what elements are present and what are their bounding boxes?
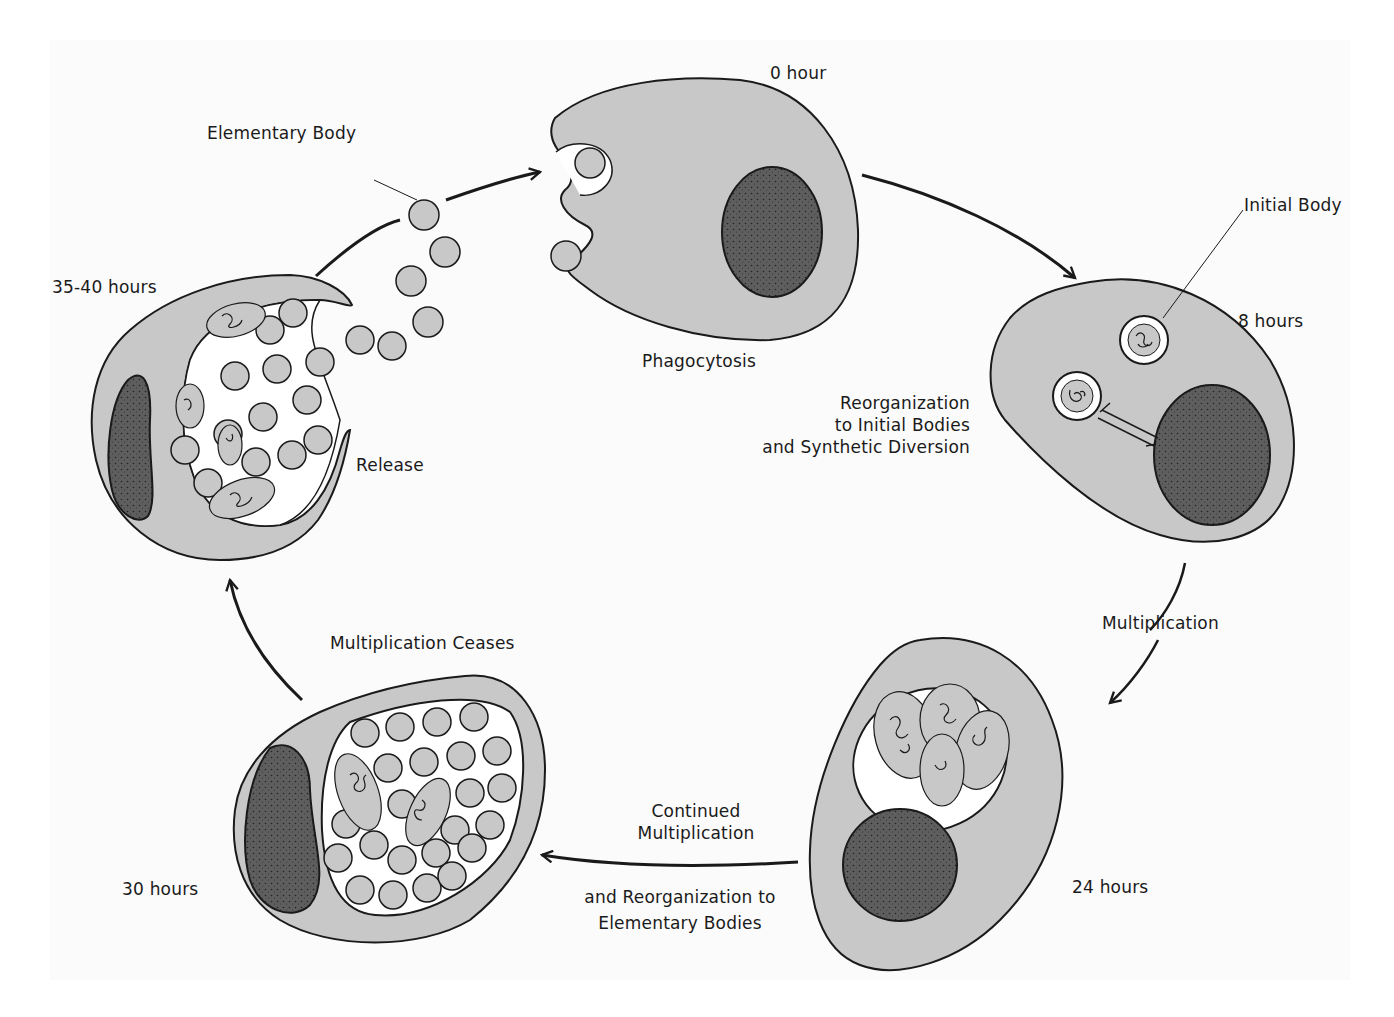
label-initial-body: Initial Body	[1244, 194, 1342, 216]
label-reorg-elementary-line-1: and Reorganization to	[560, 884, 800, 910]
label-time-8-hours: 8 hours	[1238, 310, 1303, 332]
label-continued-line-1: Continued	[586, 800, 806, 822]
label-time-35-40-hours: 35-40 hours	[52, 276, 157, 298]
initial-body	[1053, 372, 1101, 420]
label-reorganization-line-1: Reorganization	[700, 392, 970, 414]
label-elementary-body: Elementary Body	[207, 122, 356, 144]
label-phagocytosis: Phagocytosis	[642, 350, 756, 372]
cell-24-hours	[810, 638, 1062, 970]
label-reorg-elementary-line-2: Elementary Bodies	[560, 910, 800, 936]
chlamydia-life-cycle-diagram	[0, 0, 1394, 1017]
label-multiplication-ceases: Multiplication Ceases	[330, 632, 515, 654]
arrow-30h-to-35h	[230, 580, 302, 700]
label-time-30-hours: 30 hours	[122, 878, 198, 900]
label-reorganization-elementary: and Reorganization to Elementary Bodies	[560, 884, 800, 936]
label-reorganization-line-3: and Synthetic Diversion	[700, 436, 970, 458]
label-reorganization-line-2: to Initial Bodies	[700, 414, 970, 436]
label-time-0-hour: 0 hour	[770, 62, 826, 84]
initial-body	[1120, 316, 1168, 364]
cell-35-40-hours	[92, 275, 406, 560]
label-continued-line-2: Multiplication	[586, 822, 806, 844]
cell-0-hour	[551, 78, 858, 340]
elementary-body-leader-line	[374, 180, 417, 200]
arrow-0h-to-8h	[862, 175, 1075, 278]
label-release: Release	[356, 454, 424, 476]
label-multiplication: Multiplication	[1102, 612, 1219, 634]
label-reorganization: Reorganization to Initial Bodies and Syn…	[700, 392, 970, 458]
released-elementary-bodies	[396, 200, 460, 337]
cell-30-hours	[234, 676, 545, 943]
label-time-24-hours: 24 hours	[1072, 876, 1148, 898]
label-continued-multiplication: Continued Multiplication	[586, 800, 806, 844]
arrow-24h-to-30h	[542, 855, 798, 865]
elementary-body	[551, 241, 581, 271]
